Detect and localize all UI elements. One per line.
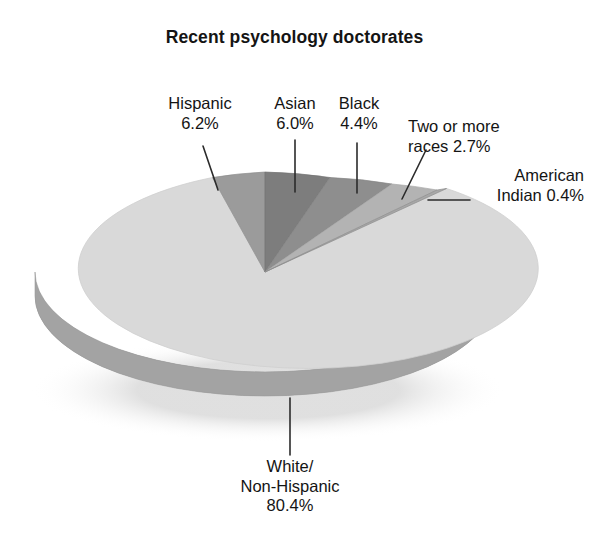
slice-label-black: Black 4.4%: [326, 94, 392, 133]
slice-label-two-or-more-races: Two or more races 2.7%: [408, 117, 548, 156]
slice-label-american-indian: American Indian 0.4%: [432, 166, 584, 205]
slice-label-hispanic: Hispanic 6.2%: [148, 94, 252, 133]
slice-label-asian: Asian 6.0%: [256, 94, 334, 133]
pie-chart-figure: Recent psychology doctorates: [0, 0, 589, 552]
slice-label-white-non-hispanic: White/ Non-Hispanic 80.4%: [190, 457, 390, 516]
